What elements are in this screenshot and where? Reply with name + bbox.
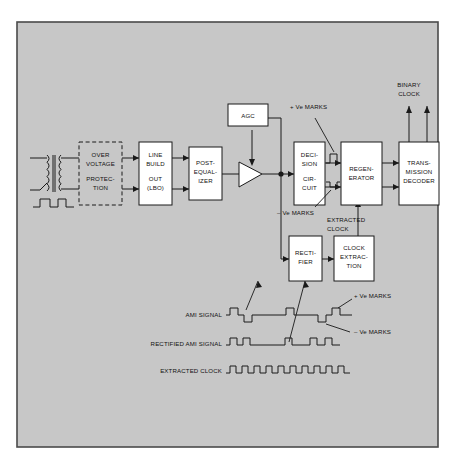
lbo-line-2: OUT (149, 175, 162, 182)
ovp-line-1: VOLTAGE (86, 160, 115, 167)
rectifier-line-1: FIER (298, 258, 313, 265)
lbo-line-3: (LBO) (147, 184, 164, 191)
decision-line-0: DECI- (301, 151, 318, 158)
label-ami-signal: AMI SIGNAL (186, 311, 223, 318)
diagram-panel (17, 22, 438, 447)
rectifier-line-0: RECTI- (295, 249, 316, 256)
annotation-extracted-clock-0: EXTRACTED (327, 216, 366, 223)
ovp-line-2: PROTEC- (86, 175, 114, 182)
posteq-line-0: POST- (196, 159, 215, 166)
label-rectified-ami-signal: RECTIFIED AMI SIGNAL (151, 340, 223, 347)
posteq-line-1: EQUAL- (194, 168, 218, 175)
clockext-line-0: CLOCK (343, 244, 365, 251)
agc-line-0: AGC (241, 112, 255, 119)
label-extracted-clock: EXTRACTED CLOCK (160, 367, 222, 374)
annotation-positive-marks-wave: + Ve MARKS (354, 292, 391, 299)
regen-line-0: REGEN- (349, 165, 374, 172)
signal-junction-node (278, 171, 283, 176)
clockext-line-1: EXTRAC- (340, 253, 368, 260)
regen-line-1: ERATOR (349, 174, 375, 181)
annotation-binary-clock-0: BINARY (397, 81, 420, 88)
lbo-line-0: LINE (148, 151, 162, 158)
decision-line-2: CIR- (303, 175, 316, 182)
annotation-binary-clock-1: CLOCK (398, 90, 420, 97)
annotation-negative-marks-wave: – Ve MARKS (354, 328, 391, 335)
decoder-line-1: MISSION (406, 168, 433, 175)
ovp-line-3: TION (93, 184, 108, 191)
ovp-line-0: OVER (92, 151, 110, 158)
annotation-extracted-clock-1: CLOCK (327, 225, 349, 232)
annotation-positive-marks-top: + Ve MARKS (290, 103, 327, 110)
posteq-line-2: IZER (198, 177, 213, 184)
decision-line-3: CUIT (302, 184, 317, 191)
block-diagram-svg: OVER VOLTAGE PROTEC- TION LINE BUILD OUT… (0, 0, 458, 464)
lbo-line-1: BUILD (146, 160, 165, 167)
decision-line-1: SION (302, 160, 318, 167)
clockext-line-2: TION (346, 262, 361, 269)
decoder-line-2: DECODER (403, 177, 435, 184)
figure-root: OVER VOLTAGE PROTEC- TION LINE BUILD OUT… (0, 0, 458, 464)
decoder-line-0: TRANS- (407, 159, 431, 166)
annotation-negative-marks-mid: – Ve MARKS (277, 209, 314, 216)
